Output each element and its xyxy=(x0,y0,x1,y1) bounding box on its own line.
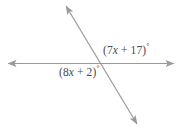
angle-label-lower-left-variable: x xyxy=(69,66,74,78)
angle-label-lower-left: (8x + 2)° xyxy=(59,66,99,78)
diagonal-line xyxy=(66,6,137,124)
angle-label-upper-right-variable: x xyxy=(113,44,118,56)
angle-label-upper-right-degree-icon: ° xyxy=(146,42,149,51)
angle-diagram-figure: (7x + 17)° (8x + 2)° xyxy=(0,0,182,131)
angle-label-upper-right-constant: 17 xyxy=(131,44,143,56)
angle-label-lower-left-degree-icon: ° xyxy=(96,64,99,73)
angle-label-upper-right: (7x + 17)° xyxy=(103,44,149,56)
angle-label-lower-left-operator: + xyxy=(77,66,84,78)
angle-label-upper-right-operator: + xyxy=(121,44,128,56)
